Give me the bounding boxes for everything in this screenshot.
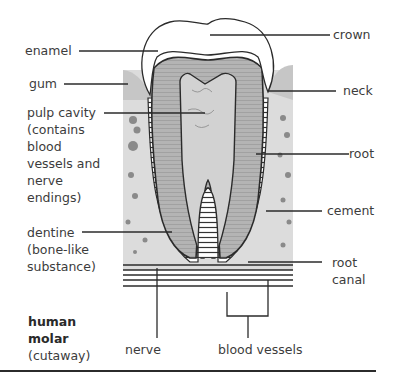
label-crown: crown (333, 26, 371, 43)
label-blood-vessels: blood vessels (218, 341, 302, 358)
label-neck: neck (343, 82, 373, 99)
label-root-canal: root canal (332, 254, 366, 288)
label-dentine: dentine (bone-like substance) (27, 224, 96, 275)
label-enamel: enamel (25, 42, 72, 59)
caption-line-1: human (28, 313, 90, 330)
label-cement: cement (327, 202, 374, 219)
diagram-caption: human molar (cutaway) (28, 313, 90, 364)
caption-line-2: molar (28, 330, 90, 347)
label-root: root (349, 145, 374, 162)
tooth-diagram: enamel gum pulp cavity (contains blood v… (0, 0, 398, 385)
label-pulp-cavity: pulp cavity (contains blood vessels and … (27, 104, 100, 206)
label-nerve: nerve (125, 341, 161, 358)
caption-subtitle: (cutaway) (28, 347, 90, 364)
label-gum: gum (29, 75, 57, 92)
